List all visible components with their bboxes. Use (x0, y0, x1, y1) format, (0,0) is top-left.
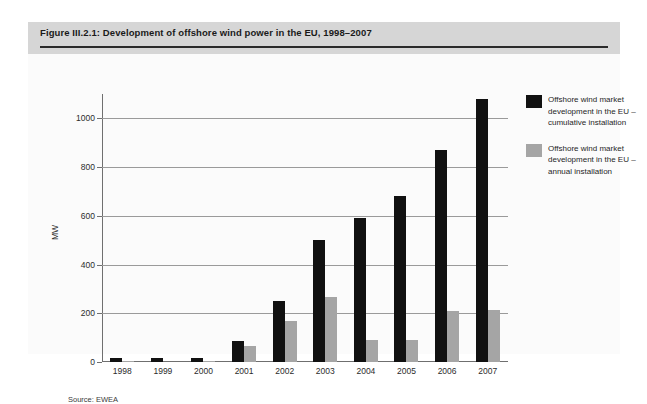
bar-group (224, 94, 265, 362)
bar-cumulative (313, 240, 325, 362)
bar-annual (447, 311, 459, 362)
title-divider (40, 46, 608, 48)
bar-cumulative (191, 358, 203, 362)
y-axis-tick-label: 600 (56, 211, 102, 221)
y-axis-tick-mark (97, 362, 102, 363)
x-axis-tick-label: 2002 (264, 366, 305, 376)
x-axis-tick-label: 2000 (183, 366, 224, 376)
bar-cumulative (151, 358, 163, 362)
source-note: Source: EWEA (68, 395, 118, 404)
x-axis-tick-label: 2006 (427, 366, 468, 376)
x-axis-tick-label: 1999 (143, 366, 184, 376)
legend-item-cumulative: Offshore wind market development in the … (526, 94, 647, 129)
bar-group (346, 94, 387, 362)
bar-annual (122, 361, 134, 362)
y-axis-tick-label: 0 (56, 357, 102, 367)
bar-cumulative (232, 341, 244, 362)
bar-cumulative (354, 218, 366, 362)
bar-group (264, 94, 305, 362)
chart-panel: MW 0200400600800100019981999200020012002… (28, 54, 620, 354)
x-axis-tick-label: 2007 (467, 366, 508, 376)
bar-group (305, 94, 346, 362)
bar-group (102, 94, 143, 362)
bar-annual (366, 340, 378, 362)
legend-label-annual: Offshore wind market development in the … (548, 143, 647, 178)
x-axis-tick-label: 2003 (305, 366, 346, 376)
legend-label-cumulative: Offshore wind market development in the … (548, 94, 647, 129)
bar-group (143, 94, 184, 362)
bar-group (386, 94, 427, 362)
bar-annual (406, 340, 418, 362)
y-axis-tick-label: 200 (56, 308, 102, 318)
bar-cumulative (394, 196, 406, 362)
y-axis-label: MW (50, 225, 60, 240)
bar-cumulative (435, 150, 447, 362)
bar-group (427, 94, 468, 362)
figure-title: Figure III.2.1: Development of offshore … (40, 27, 372, 38)
legend-item-annual: Offshore wind market development in the … (526, 143, 647, 178)
x-axis-tick-label: 2001 (224, 366, 265, 376)
bar-annual (488, 310, 500, 362)
bar-cumulative (273, 301, 285, 362)
x-axis-tick-label: 1998 (102, 366, 143, 376)
y-axis-tick-label: 1000 (56, 113, 102, 123)
bar-group (467, 94, 508, 362)
bar-annual (244, 346, 256, 362)
bar-cumulative (110, 358, 122, 362)
y-axis-tick-label: 400 (56, 260, 102, 270)
bar-annual (325, 297, 337, 362)
x-axis-tick-label: 2005 (386, 366, 427, 376)
legend-swatch-cumulative (526, 95, 542, 108)
bar-annual (203, 361, 215, 362)
plot-inner: 0200400600800100019981999200020012002200… (102, 94, 508, 362)
y-axis-tick-label: 800 (56, 162, 102, 172)
bar-cumulative (476, 99, 488, 362)
plot-area: 0200400600800100019981999200020012002200… (102, 94, 508, 362)
chart-legend: Offshore wind market development in the … (526, 94, 647, 191)
bar-group (183, 94, 224, 362)
bar-annual (285, 321, 297, 362)
x-axis-tick-label: 2004 (346, 366, 387, 376)
legend-swatch-annual (526, 144, 542, 157)
